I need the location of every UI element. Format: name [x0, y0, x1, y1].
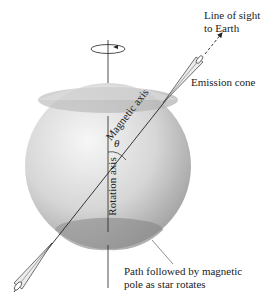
path-leader-line [152, 240, 173, 264]
line-of-sight-text-1: Line of sight [204, 9, 260, 22]
line-of-sight-text-2: to Earth [204, 22, 260, 35]
line-of-sight-label: Line of sight to Earth [204, 9, 260, 35]
emission-cone-label: Emission cone [191, 76, 255, 89]
pulsar-diagram [0, 0, 268, 302]
rotation-axis-label: Rotation axis [106, 147, 119, 227]
line-of-sight-arrow [205, 33, 222, 54]
path-text-1: Path followed by magnetic [124, 265, 242, 278]
emission-cone-lower [13, 243, 52, 291]
path-text-2: pole as star rotates [124, 278, 242, 291]
path-label: Path followed by magnetic pole as star r… [124, 265, 242, 291]
